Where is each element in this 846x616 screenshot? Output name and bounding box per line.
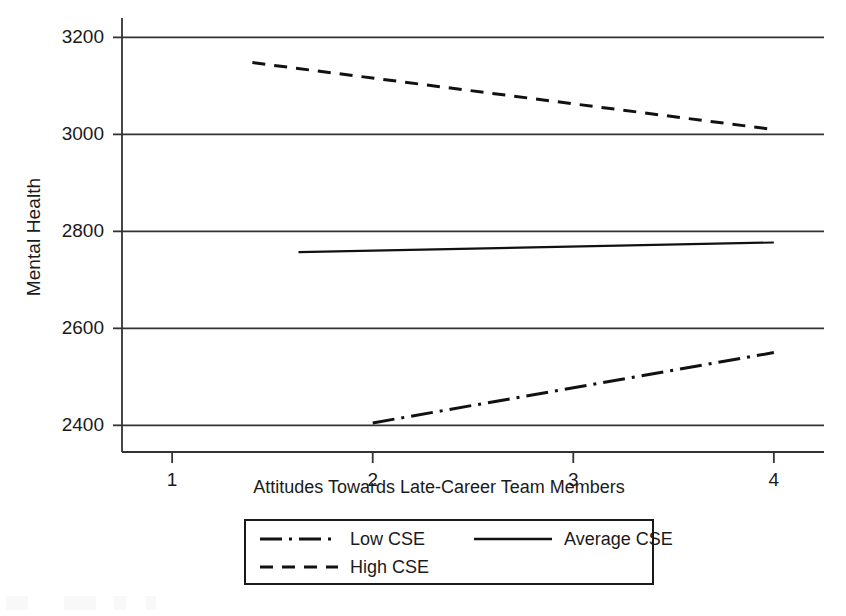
series-line-low-cse (373, 353, 774, 423)
y-tick-label: 2600 (34, 318, 104, 337)
legend-label: High CSE (350, 557, 429, 578)
x-axis-title-text: Attitudes Towards Late-Career Team Membe… (253, 477, 625, 498)
legend-line-sample-icon (260, 531, 338, 547)
legend-line-sample-icon (474, 531, 552, 547)
legend-item: Average CSE (474, 527, 673, 551)
legend-label: Low CSE (350, 529, 425, 550)
y-tick-label: 2800 (34, 221, 104, 240)
legend-line-sample-icon (260, 559, 338, 575)
y-tick-label: 3000 (34, 124, 104, 143)
y-tick-label: 3200 (34, 27, 104, 46)
y-tick-label: 2400 (34, 415, 104, 434)
legend-label: Average CSE (564, 529, 673, 550)
series-line-average-cse (299, 243, 774, 253)
legend-item: Low CSE (260, 527, 425, 551)
axis-lines (122, 18, 824, 452)
chart-legend: Low CSEAverage CSEHigh CSE (244, 519, 654, 585)
series-line-high-cse (252, 63, 773, 130)
legend-item: High CSE (260, 555, 429, 579)
chart-figure: Mental Health 24002600280030003200 1234 … (0, 0, 846, 616)
x-axis-title: Attitudes Towards Late-Career Team Membe… (0, 477, 846, 498)
gridlines (122, 37, 824, 425)
scan-artifact (6, 596, 156, 610)
series-lines (252, 63, 773, 423)
